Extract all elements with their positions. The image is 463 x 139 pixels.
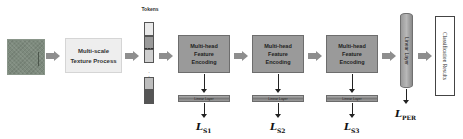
linear-layer-1-label: Linear Layer [194,97,213,101]
token-2 [144,36,154,49]
encoder-2-line3: Encoding [265,58,290,66]
linear-layer-1: Linear Layer [178,95,230,102]
encoder-3-line2: Feature [342,50,362,58]
down-arrow-icon [275,89,281,93]
right-arrow-icon [308,51,322,61]
down-arrow-shaft [278,74,279,90]
down-arrow-shaft [204,74,205,90]
encoder-3-line3: Encoding [339,58,364,66]
token-3 [144,49,154,63]
loss-per: LPER [395,108,416,121]
down-arrow-shaft [352,74,353,90]
down-arrow-icon [349,114,355,118]
right-arrow-icon [382,51,396,61]
multi-head-feature-encoding-3: Multi-head Feature Encoding [326,35,378,73]
linear-layer-2: Linear Layer [252,95,304,102]
loss-s1: LS1 [196,121,212,134]
tokens-label: Tokens [138,6,162,12]
multiscale-line1: Multi-scale [78,46,109,56]
multiscale-texture-process-box: Multi-scale Texture Process [65,38,122,73]
final-linear-layer: Linear Layer [400,13,413,88]
multi-head-feature-encoding-1: Multi-head Feature Encoding [178,35,230,73]
token-n-minus-1 [144,77,154,90]
right-arrow-icon [125,51,139,61]
multiscale-line2: Texture Process [70,56,116,66]
encoder-2-line1: Multi-head [264,42,292,50]
right-arrow-icon [234,51,248,61]
encoder-2-line2: Feature [268,50,288,58]
linear-layer-2-label: Linear Layer [268,97,287,101]
token-1 [144,22,154,36]
classification-results-box: Classification Results [435,16,455,96]
down-arrow-icon [201,89,207,93]
down-arrow-icon [403,100,409,104]
input-texture-image [7,39,45,75]
classification-results-label: Classification Results [442,32,448,80]
down-arrow-icon [275,114,281,118]
crack-line [38,52,39,66]
encoder-1-line1: Multi-head [190,42,218,50]
token-n [144,90,154,104]
linear-layer-3: Linear Layer [326,95,378,102]
right-arrow-icon [46,51,60,61]
encoder-1-line2: Feature [194,50,214,58]
loss-s2: LS2 [270,121,286,134]
right-arrow-icon [418,51,432,61]
right-arrow-icon [159,51,173,61]
linear-layer-3-label: Linear Layer [342,97,361,101]
encoder-3-line1: Multi-head [338,42,366,50]
multi-head-feature-encoding-2: Multi-head Feature Encoding [252,35,304,73]
down-arrow-icon [201,114,207,118]
down-arrow-icon [349,89,355,93]
final-linear-layer-label: Linear Layer [404,37,410,65]
encoder-1-line3: Encoding [191,58,216,66]
loss-s3: LS3 [344,121,360,134]
